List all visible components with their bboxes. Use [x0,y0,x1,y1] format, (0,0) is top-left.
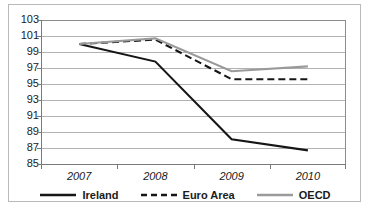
x-tick-label-2010: 2010 [296,170,320,183]
series-lines [41,20,346,164]
x-axis-tick-labels: 2007200820092010 [41,170,346,186]
y-tick-mark-95 [37,84,41,85]
x-tick-label-2007: 2007 [67,170,91,183]
legend-swatch-oecd-icon [257,190,293,200]
x-tick-label-2009: 2009 [219,170,243,183]
y-tick-mark-93 [37,100,41,101]
legend-item-oecd[interactable]: OECD [257,190,331,201]
legend-swatch-ireland-icon [40,190,76,200]
series-line-oecd [79,38,308,71]
series-line-euro-area [79,40,308,80]
chart-frame: 1031019997959391898785 2007200820092010 … [8,4,361,202]
y-axis-tick-labels: 1031019997959391898785 [9,20,39,164]
series-line-ireland [79,44,308,150]
legend-item-ireland[interactable]: Ireland [40,190,118,201]
y-tick-mark-87 [37,148,41,149]
y-tick-mark-101 [37,36,41,37]
x-tick-mark-3 [270,164,271,169]
y-tick-mark-99 [37,52,41,53]
x-tick-mark-0 [41,164,42,169]
plot-area [41,20,346,164]
x-tick-mark-4 [345,164,346,169]
y-tick-mark-91 [37,116,41,117]
legend-swatch-euro-area-icon [141,190,177,200]
y-tick-mark-89 [37,132,41,133]
legend-label: Ireland [82,190,118,201]
legend-item-euro-area[interactable]: Euro Area [141,190,235,201]
chart-legend: IrelandEuro AreaOECD [9,187,362,203]
x-tick-label-2008: 2008 [143,170,167,183]
legend-label: OECD [299,190,331,201]
x-tick-mark-1 [117,164,118,169]
x-tick-mark-2 [194,164,195,169]
y-tick-mark-103 [37,20,41,21]
legend-label: Euro Area [183,190,235,201]
y-tick-mark-97 [37,68,41,69]
